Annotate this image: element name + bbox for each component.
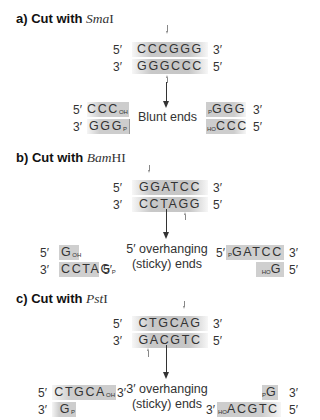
bottom-strand-sequence: GGGCCC xyxy=(132,59,208,74)
top-strand-sequence: CCCGGG xyxy=(132,42,208,57)
enzyme-roman: HI xyxy=(112,150,126,165)
title-prefix: a) Cut with xyxy=(16,11,86,26)
fragment-bottom-strand: HOG xyxy=(256,262,284,277)
hydroxyl-label: OH xyxy=(119,109,128,115)
phosphate-label: P xyxy=(112,269,116,275)
strand-end-label: 5′ xyxy=(213,334,222,348)
cut-site-arrow-icon xyxy=(183,306,185,309)
enzyme-roman: I xyxy=(109,11,114,26)
strand-end-label: 3′ xyxy=(289,246,298,260)
title-prefix: b) Cut with xyxy=(16,150,87,165)
phosphate-label: P xyxy=(123,126,127,132)
top-strand-sequence: GGATCC xyxy=(132,180,208,195)
strand-end-label: 3′ xyxy=(213,43,222,57)
fragment-sequence: GGG xyxy=(89,119,123,133)
fragment-top-strand: PG xyxy=(262,385,278,400)
enzyme-name: SmaI xyxy=(86,11,114,26)
reaction-arrow-line xyxy=(166,345,167,373)
strand-end-label: 5′ xyxy=(113,181,122,195)
strand-end-label: 5′ xyxy=(213,198,222,212)
fragment-bottom-strand: HOACGTC xyxy=(217,402,281,417)
strand-end-label: 5′ xyxy=(289,263,298,277)
phosphate-label: P xyxy=(71,409,75,415)
top-strand-box: CTGCAG xyxy=(132,316,208,331)
bottom-strand-box: CCTAGG xyxy=(132,197,208,212)
fragment-top-strand: CCCOH xyxy=(87,102,129,117)
fragment-sequence: CCC xyxy=(216,119,248,133)
strand-end-label: 5′ xyxy=(253,120,262,134)
fragment-bottom-strand: GP xyxy=(52,402,76,417)
fragment-sequence: GATCC xyxy=(232,245,283,259)
down-arrow-icon xyxy=(163,101,169,108)
fragment-sequence: G xyxy=(60,402,71,416)
strand-end-label: 5′ xyxy=(113,317,122,331)
panel-b-title: b) Cut with BamHI xyxy=(16,150,126,166)
down-arrow-icon xyxy=(163,372,169,379)
hydroxyl-label: HO xyxy=(262,269,271,275)
bottom-strand-sequence: CCTAGG xyxy=(132,197,208,212)
enzyme-name: PstI xyxy=(86,291,108,306)
panel-a-title: a) Cut with SmaI xyxy=(16,11,114,27)
fragment-sequence: G xyxy=(266,385,277,399)
hydroxyl-label: HO xyxy=(218,409,227,415)
strand-end-label: 5′ xyxy=(103,263,112,277)
top-strand-sequence: CTGCAG xyxy=(132,316,208,331)
fragment-sequence: G xyxy=(271,262,282,276)
hydroxyl-label: OH xyxy=(72,252,81,258)
bottom-strand-sequence: GACGTC xyxy=(132,333,208,348)
cut-site-arrow-icon xyxy=(148,170,150,173)
strand-end-label: 3′ xyxy=(38,403,47,417)
top-strand-box: CCCGGG xyxy=(132,42,208,57)
enzyme-italic: Sma xyxy=(86,11,109,26)
bottom-strand-box: GACGTC xyxy=(132,333,208,348)
strand-end-label: 5′ xyxy=(113,43,122,57)
strand-end-label: 3′ xyxy=(40,263,49,277)
cut-site-marker-bottom xyxy=(148,351,149,357)
strand-end-label: 5′ xyxy=(73,103,82,117)
strand-end-label: 3′ xyxy=(213,181,222,195)
strand-end-label: 3′ xyxy=(113,60,122,74)
cut-site-marker-bottom xyxy=(185,215,186,220)
enzyme-italic: Pst xyxy=(86,291,103,306)
reaction-arrow-line xyxy=(166,82,167,102)
result-label: (sticky) ends xyxy=(126,257,208,272)
fragment-sequence: CCC xyxy=(87,102,119,116)
fragment-top-strand: PGGG xyxy=(206,102,246,117)
fragment-top-strand: CTGCAOH xyxy=(52,385,116,400)
result-label: 5′ overhanging xyxy=(126,242,208,257)
strand-end-label: 3′ xyxy=(113,334,122,348)
enzyme-italic: Bam xyxy=(87,150,112,165)
strand-end-label: 3′ xyxy=(206,403,215,417)
fragment-bottom-strand: GGGP xyxy=(87,119,130,134)
strand-end-label: 5′ xyxy=(213,60,222,74)
fragment-sequence: CTGCA xyxy=(54,385,106,399)
fragment-bottom-strand: CCTAGP xyxy=(59,262,99,277)
down-arrow-icon xyxy=(163,232,169,239)
fragment-top-strand: GOH xyxy=(59,245,79,260)
cut-site-marker-bottom xyxy=(167,78,168,83)
strand-end-label: 3′ xyxy=(289,386,298,400)
fragment-sequence: GGG xyxy=(212,102,246,116)
hydroxyl-label: HO xyxy=(207,126,216,132)
fragment-top-strand: PGATCC xyxy=(226,245,284,260)
title-prefix: c) Cut with xyxy=(16,291,86,306)
fragment-bottom-strand: HOCCC xyxy=(206,119,246,134)
strand-end-label: 5′ xyxy=(289,403,298,417)
strand-end-label: 3′ xyxy=(213,317,222,331)
top-strand-box: GGATCC xyxy=(132,180,208,195)
reaction-arrow-line xyxy=(166,209,167,233)
fragment-sequence: G xyxy=(61,245,72,259)
enzyme-roman: I xyxy=(103,291,108,306)
strand-end-label: 3′ xyxy=(73,120,82,134)
hydroxyl-label: OH xyxy=(106,392,115,398)
result-label: Blunt ends xyxy=(138,110,196,125)
strand-end-label: 5′ xyxy=(40,246,49,260)
strand-end-label: 5′ xyxy=(216,246,225,260)
enzyme-name: BamHI xyxy=(87,150,126,165)
fragment-sequence: ACGTC xyxy=(227,402,279,416)
strand-end-label: 3′ xyxy=(117,386,126,400)
strand-end-label: 3′ xyxy=(253,103,262,117)
panel-c-title: c) Cut with PstI xyxy=(16,291,108,307)
strand-end-label: 5′ xyxy=(38,386,47,400)
bottom-strand-box: GGGCCC xyxy=(132,59,208,74)
